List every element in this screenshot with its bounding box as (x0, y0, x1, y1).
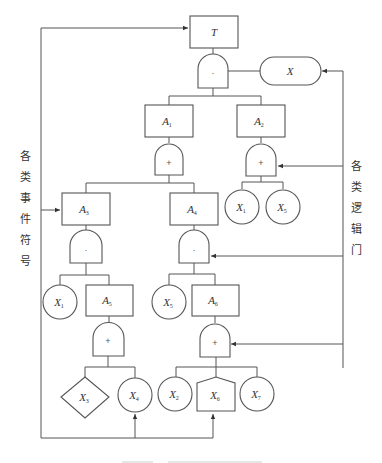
event-subscript: 1 (243, 208, 246, 214)
side-char: 符 (20, 234, 31, 247)
basic-event-X7[interactable]: X7 (240, 377, 274, 411)
intermediate-event-A5[interactable]: A5 (86, 285, 133, 316)
top-event-T[interactable]: T (190, 16, 238, 48)
house-event-X6[interactable]: X6 (197, 377, 235, 411)
or-gate-symbol: + (105, 336, 110, 346)
intermediate-event-A4[interactable]: A4 (170, 193, 218, 225)
side-char: 号 (20, 255, 31, 268)
side-char: 类 (20, 170, 31, 184)
or-gate-symbol: + (212, 338, 217, 348)
intermediate-event-A2[interactable]: A2 (237, 105, 285, 137)
event-subscript: 2 (261, 122, 264, 128)
event-subscript: 6 (217, 396, 220, 402)
event-subscript: 5 (170, 303, 173, 309)
intermediate-event-A3[interactable]: A3 (62, 193, 110, 225)
event-subscript: 3 (86, 210, 89, 216)
side-char: 件 (20, 213, 31, 226)
event-subscript: 4 (136, 396, 139, 402)
top-event-label: T (211, 26, 218, 38)
and-gate-A4[interactable]: · (179, 230, 209, 263)
and-gate-A3[interactable]: · (70, 230, 102, 263)
fault-tree-diagram: T · X A1 A2 + + X1 X5 A3 (0, 0, 382, 463)
event-subscript: 6 (215, 301, 218, 307)
condition-event-X[interactable]: X (260, 57, 321, 85)
and-gate-top[interactable]: · (198, 54, 228, 88)
event-subscript: 5 (109, 301, 112, 307)
or-gate-A1[interactable]: + (155, 144, 183, 175)
basic-event-X2[interactable]: X2 (158, 377, 192, 411)
side-char: 各 (351, 159, 362, 173)
event-subscript: 1 (61, 303, 64, 309)
event-subscript: 7 (258, 395, 261, 401)
left-side-label: 各 类 事 件 符 号 (20, 149, 31, 268)
basic-event-X5-left[interactable]: X5 (152, 285, 186, 319)
condition-event-label: X (286, 65, 295, 77)
intermediate-event-A1[interactable]: A1 (145, 105, 193, 137)
basic-event-X5-right[interactable]: X5 (266, 190, 300, 224)
undeveloped-event-X3[interactable]: X3 (61, 377, 109, 418)
or-gate-symbol: + (166, 158, 171, 168)
side-char: 类 (351, 180, 362, 194)
event-subscript: 4 (194, 210, 197, 216)
and-gate-symbol: · (85, 245, 88, 255)
or-gate-A6[interactable]: + (200, 324, 230, 357)
side-char: 门 (351, 243, 362, 257)
side-char: 各 (20, 149, 31, 163)
or-gate-A5[interactable]: + (93, 323, 124, 357)
basic-event-X4[interactable]: X4 (118, 378, 152, 412)
event-subscript: 3 (86, 398, 89, 404)
event-subscript: 2 (176, 395, 179, 401)
right-side-label: 各 类 逻 辑 门 (351, 159, 362, 257)
and-gate-symbol: · (193, 245, 196, 255)
or-gate-symbol: + (258, 158, 263, 168)
event-subscript: 1 (169, 122, 172, 128)
event-subscript: 5 (284, 208, 287, 214)
and-gate-symbol: · (212, 68, 215, 78)
intermediate-event-A6[interactable]: A6 (192, 285, 239, 316)
side-char: 逻 (351, 202, 362, 215)
basic-event-X1-right[interactable]: X1 (225, 190, 259, 224)
or-gate-A2[interactable]: + (246, 144, 276, 176)
side-char: 辑 (351, 222, 362, 236)
basic-event-X1-left[interactable]: X1 (43, 285, 77, 319)
side-char: 事 (20, 192, 31, 205)
